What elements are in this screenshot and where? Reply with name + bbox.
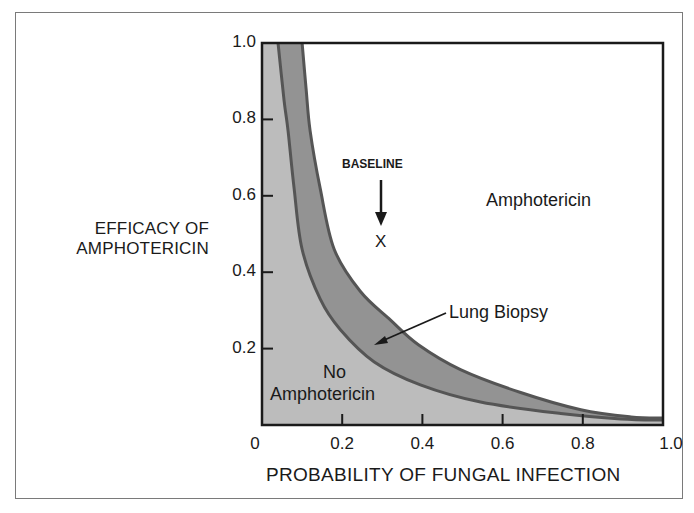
x-axis-label: PROBABILITY OF FUNGAL INFECTION [266, 464, 621, 486]
x-tick-label: 0.2 [322, 434, 362, 454]
y-tick-label: 0.8 [216, 108, 256, 128]
y-axis-label-line2: AMPHOTERICIN [76, 239, 209, 259]
baseline-marker: X [375, 232, 386, 252]
x-tick-label: 0.8 [563, 434, 603, 454]
no-amphotericin-label-no: No [323, 362, 346, 383]
baseline-arrow-head [375, 212, 387, 226]
y-tick-label: 0.4 [216, 261, 256, 281]
x-tick-label: 0 [235, 434, 275, 454]
x-tick-label: 1.0 [651, 434, 691, 454]
y-tick-label: 0.6 [216, 185, 256, 205]
x-tick-label: 0.6 [483, 434, 523, 454]
lung-biopsy-label: Lung Biopsy [449, 302, 548, 323]
y-tick-label: 1.0 [216, 32, 256, 52]
y-axis-label-line1: EFFICACY OF [95, 219, 209, 239]
no-amphotericin-label: Amphotericin [270, 384, 375, 405]
baseline-label: BASELINE [342, 157, 403, 171]
amphotericin-region-label: Amphotericin [486, 190, 591, 211]
x-tick-label: 0.4 [402, 434, 442, 454]
y-tick-label: 0.2 [216, 338, 256, 358]
